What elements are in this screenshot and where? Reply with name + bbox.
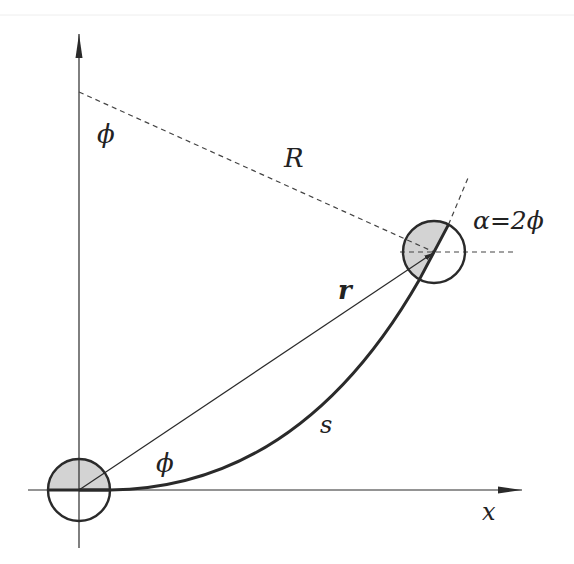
label-phi-bottom: ϕ (156, 448, 174, 478)
radius-R-dashed (79, 92, 434, 252)
diagram-svg: ϕ R α=2ϕ r s ϕ x (0, 0, 574, 564)
label-x-axis: x (482, 498, 496, 526)
diagram-canvas: ϕ R α=2ϕ r s ϕ x (0, 0, 574, 564)
tangent-extension-dashed (449, 178, 469, 225)
label-r-vector: r (338, 275, 354, 305)
label-s: s (320, 411, 332, 439)
label-phi-top: ϕ (97, 119, 115, 149)
arc-s (79, 225, 449, 490)
label-R: R (283, 143, 304, 173)
label-alpha: α=2ϕ (473, 206, 544, 235)
position-vector-r (79, 253, 433, 490)
